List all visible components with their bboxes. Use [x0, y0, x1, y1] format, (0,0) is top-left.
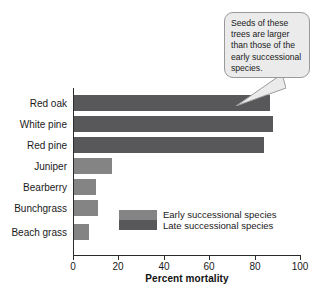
callout-text: Seeds of these trees are larger than tho…: [231, 18, 307, 74]
legend-label-early: Early successional species: [163, 209, 277, 220]
bar-chart: Red oak White pine Red pine Juniper Bear…: [0, 0, 322, 290]
x-tick-20: [118, 255, 119, 260]
x-tick-40: [164, 255, 165, 260]
legend-swatch-early: [119, 210, 157, 220]
x-tick-0: [73, 255, 74, 260]
bar-white-pine: [73, 116, 273, 132]
bar-beach-grass: [73, 224, 89, 240]
category-label-bunchgrass: Bunchgrass: [14, 203, 67, 214]
y-axis-line: [73, 88, 74, 255]
x-tick-100: [300, 255, 301, 260]
bar-juniper: [73, 158, 112, 174]
category-label-red-oak: Red oak: [30, 98, 67, 109]
category-label-beach-grass: Beach grass: [11, 227, 67, 238]
x-tick-label-0: 0: [58, 261, 88, 272]
legend-swatch-late: [119, 220, 157, 230]
callout-bubble: Seeds of these trees are larger than tho…: [224, 12, 310, 78]
bar-bearberry: [73, 179, 96, 195]
bar-red-pine: [73, 137, 264, 153]
x-tick-60: [209, 255, 210, 260]
category-label-white-pine: White pine: [20, 119, 67, 130]
bar-bunchgrass: [73, 200, 98, 216]
x-tick-80: [255, 255, 256, 260]
x-tick-label-40: 40: [149, 261, 179, 272]
legend-label-late: Late successional species: [163, 220, 273, 231]
category-label-juniper: Juniper: [34, 161, 67, 172]
legend-swatch: [119, 210, 157, 230]
x-tick-label-60: 60: [194, 261, 224, 272]
x-axis-title: Percent mortality: [73, 273, 301, 284]
x-axis-line: [73, 255, 301, 256]
bar-red-oak: [73, 95, 270, 111]
category-label-bearberry: Bearberry: [23, 182, 67, 193]
x-tick-label-80: 80: [240, 261, 270, 272]
category-label-red-pine: Red pine: [27, 140, 67, 151]
x-tick-label-20: 20: [103, 261, 133, 272]
x-tick-label-100: 100: [285, 261, 315, 272]
